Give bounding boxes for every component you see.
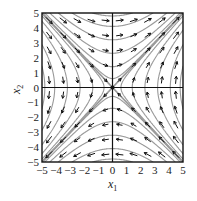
svg-text:1: 1 <box>34 67 40 79</box>
svg-text:3: 3 <box>34 37 40 49</box>
svg-text:−1: −1 <box>93 164 105 176</box>
svg-text:4: 4 <box>34 22 40 34</box>
svg-text:2: 2 <box>34 52 40 64</box>
svg-text:−4: −4 <box>50 164 62 176</box>
svg-text:−3: −3 <box>64 164 76 176</box>
svg-text:−3: −3 <box>27 126 39 138</box>
svg-text:2: 2 <box>138 164 144 176</box>
svg-text:5: 5 <box>34 7 40 19</box>
y-axis-label: x2 <box>9 85 25 95</box>
svg-text:0: 0 <box>110 164 116 176</box>
svg-text:−4: −4 <box>27 141 39 153</box>
svg-text:−2: −2 <box>27 111 39 123</box>
svg-text:−1: −1 <box>27 96 39 108</box>
svg-text:−2: −2 <box>78 164 90 176</box>
svg-text:5: 5 <box>180 164 186 176</box>
svg-text:1: 1 <box>124 164 130 176</box>
svg-text:0: 0 <box>34 82 40 94</box>
svg-text:−5: −5 <box>27 156 39 168</box>
x-axis-label: x1 <box>107 177 117 193</box>
svg-text:4: 4 <box>166 164 172 176</box>
phase-portrait: −5−4−3−2−1012345543210−1−2−3−4−5 x1 x2 <box>0 0 197 201</box>
svg-text:3: 3 <box>152 164 158 176</box>
